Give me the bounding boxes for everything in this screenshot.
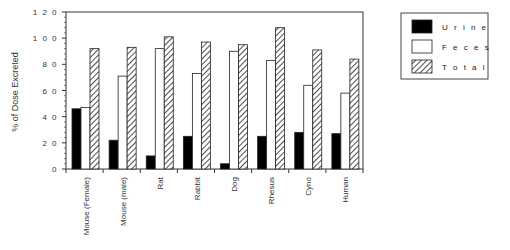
bar-group-rat: [146, 37, 173, 169]
urine-bar: [221, 164, 230, 169]
urine-bar: [109, 140, 118, 169]
y-tick-label: 6 0: [42, 87, 58, 96]
legend-label: T o t a l: [442, 63, 487, 72]
total-bar: [201, 42, 210, 169]
total-bar: [239, 45, 248, 169]
feces-bar: [267, 60, 276, 169]
urine-bar: [72, 109, 81, 169]
feces-swatch-icon: [412, 40, 432, 53]
feces-bar: [118, 76, 127, 169]
feces-bar: [155, 49, 164, 169]
x-category-label: Dog: [230, 177, 239, 192]
total-bar: [350, 59, 359, 169]
legend: U r i n eF e c e sT o t a l: [401, 13, 491, 79]
urine-swatch-icon: [412, 20, 432, 33]
y-tick-label: 8 0: [42, 60, 58, 69]
feces-bar: [81, 108, 90, 169]
x-category-label: Rabbit: [193, 176, 202, 200]
x-category-label: Rhesus: [267, 177, 276, 204]
urine-bar: [295, 132, 304, 169]
total-bar: [90, 49, 99, 169]
urine-bar: [146, 156, 155, 169]
bar-group-rabbit: [183, 42, 210, 169]
y-tick-label: 1 0 0: [33, 34, 58, 43]
bar-group-dog: [221, 45, 248, 169]
urine-bar: [183, 136, 192, 169]
total-hatch-swatch-icon: [412, 60, 432, 73]
legend-label: F e c e s: [442, 43, 491, 52]
bar-group-rhesus: [258, 28, 285, 169]
legend-label: U r i n e: [442, 23, 488, 32]
bar-group-cyno: [295, 50, 322, 169]
x-category-label: Mouse (Female): [82, 177, 91, 236]
bar-group-mouse-female: [72, 49, 99, 169]
y-tick-label: 4 0: [42, 113, 58, 122]
feces-bar: [230, 51, 239, 169]
feces-bar: [341, 93, 350, 169]
total-bar: [276, 28, 285, 169]
x-category-label: Mouse (male): [119, 177, 128, 226]
x-category-label: Cyno: [304, 176, 313, 195]
y-axis-title: % of Dose Excreted: [10, 52, 20, 132]
x-category-label: Rat: [156, 176, 165, 189]
total-bar: [127, 47, 136, 169]
urine-bar: [258, 136, 267, 169]
y-tick-label: 2 0: [42, 139, 58, 148]
bar-group-human: [332, 59, 359, 169]
bar-group-mouse-male: [109, 47, 136, 169]
urine-bar: [332, 134, 341, 169]
y-tick-label: 1 2 0: [33, 8, 58, 17]
feces-bar: [192, 73, 201, 169]
x-category-label: Human: [341, 177, 350, 203]
y-axis: 02 04 06 08 01 0 01 2 0: [33, 8, 66, 174]
excretion-bar-chart: 02 04 06 08 01 0 01 2 0 Mouse (Female)Mo…: [0, 0, 510, 250]
feces-bar: [304, 85, 313, 169]
y-tick-label: 0: [52, 165, 58, 174]
total-bar: [313, 50, 322, 169]
x-axis: Mouse (Female)Mouse (male)RatRabbitDogRh…: [66, 169, 363, 235]
total-bar: [164, 37, 173, 169]
bar-groups: [72, 28, 359, 169]
